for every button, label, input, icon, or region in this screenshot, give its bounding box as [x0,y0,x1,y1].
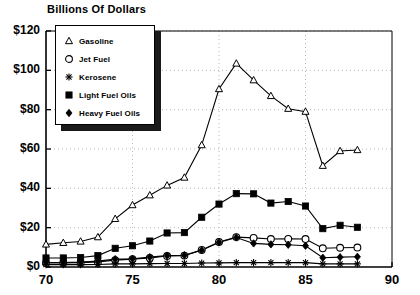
legend-item-label: Heavy Fuel Oils [79,109,140,118]
chart-legend: GasolineJet FuelKeroseneLight Fuel OilsH… [55,25,155,125]
y-axis-tick-label: $80 [0,102,40,116]
marker-asterisk-icon [215,259,222,266]
marker-triangle-open-icon [112,215,119,221]
marker-square-filled-icon [251,191,257,197]
marker-diamond-filled-icon [66,109,72,116]
chart-container: Billions Of Dollars GasolineJet FuelKero… [0,0,420,295]
marker-square-filled-icon [354,224,360,230]
marker-asterisk-icon [267,259,274,266]
legend-item-heavy-fuel-oils[interactable]: Heavy Fuel Oils [62,104,154,122]
marker-triangle-open-icon [198,141,205,147]
marker-asterisk-icon [250,259,257,266]
marker-triangle-open-icon [233,60,240,66]
triangle-open-icon [62,34,76,48]
circle-open-icon [62,52,76,66]
marker-diamond-filled-icon [302,242,308,249]
marker-asterisk-icon [354,260,361,267]
square-filled-icon [62,88,76,102]
marker-asterisk-icon [198,259,205,266]
diamond-filled-icon [62,106,76,120]
marker-diamond-filled-icon [354,253,360,260]
marker-square-filled-icon [164,230,170,236]
marker-asterisk-icon [65,73,72,80]
marker-circle-open-icon [354,244,361,251]
marker-asterisk-icon [233,259,240,266]
legend-item-label: Kerosene [79,73,116,82]
marker-circle-open-icon [337,244,344,251]
legend-item-light-fuel-oils[interactable]: Light Fuel Oils [62,86,154,104]
y-axis-tick-label: $100 [0,62,40,76]
marker-square-filled-icon [199,214,205,220]
legend-item-gasoline[interactable]: Gasoline [62,32,154,50]
marker-square-filled-icon [233,191,239,197]
x-axis-tick-label: 90 [372,272,412,287]
marker-triangle-open-icon [65,37,72,43]
marker-asterisk-icon [302,259,309,266]
marker-square-filled-icon [268,200,274,206]
marker-circle-open-icon [66,56,73,63]
marker-asterisk-icon [285,259,292,266]
y-axis-tick-label: $20 [0,220,40,234]
marker-triangle-open-icon [129,201,136,207]
x-axis-tick-label: 70 [26,272,66,287]
x-axis-tick-label: 75 [113,272,153,287]
marker-diamond-filled-icon [320,254,326,261]
marker-triangle-open-icon [285,105,292,111]
marker-asterisk-icon [164,260,171,267]
y-axis-tick-label: $0 [0,259,40,273]
y-axis-tick-label: $120 [0,23,40,37]
x-axis-tick-label: 80 [199,272,239,287]
marker-diamond-filled-icon [337,253,343,260]
marker-square-filled-icon [216,201,222,207]
legend-item-label: Light Fuel Oils [79,91,136,100]
asterisk-icon [62,70,76,84]
marker-square-filled-icon [147,238,153,244]
x-axis-tick-label: 85 [286,272,326,287]
marker-square-filled-icon [302,203,308,209]
marker-square-filled-icon [285,198,291,204]
marker-circle-open-icon [319,245,326,252]
marker-square-filled-icon [181,229,187,235]
legend-item-label: Gasoline [79,37,114,46]
marker-asterisk-icon [181,260,188,267]
legend-item-label: Jet Fuel [79,55,110,64]
marker-square-filled-icon [129,243,135,249]
legend-item-kerosene[interactable]: Kerosene [62,68,154,86]
marker-triangle-open-icon [181,174,188,180]
marker-triangle-open-icon [146,192,153,198]
marker-square-filled-icon [112,245,118,251]
marker-square-filled-icon [337,222,343,228]
marker-square-filled-icon [66,92,72,98]
y-axis-tick-label: $40 [0,180,40,194]
marker-square-filled-icon [320,226,326,232]
y-axis-tick-label: $60 [0,141,40,155]
legend-item-jet-fuel[interactable]: Jet Fuel [62,50,154,68]
